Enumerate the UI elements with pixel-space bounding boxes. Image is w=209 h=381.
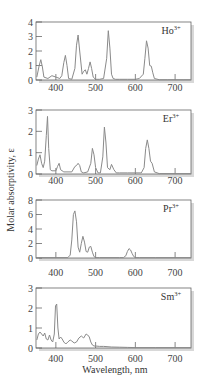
spectra-figure: 01234400500600700Ho3+0123400500600700Er3…: [0, 0, 209, 381]
y-tick-label: 3: [28, 105, 33, 116]
x-tick-label: 700: [168, 267, 183, 278]
y-tick-label: 3: [28, 31, 33, 42]
panel-er: 0123400500600700Er3+: [28, 105, 194, 187]
x-tick-label: 600: [128, 175, 143, 186]
x-tick-label: 400: [48, 353, 63, 364]
y-tick-label: 1: [28, 147, 33, 158]
x-tick-label: 700: [168, 353, 183, 364]
y-tick-label: 2: [28, 238, 33, 249]
y-tick-label: 8: [28, 195, 33, 206]
y-tick-label: 0: [28, 343, 33, 354]
y-tick-label: 0: [28, 253, 33, 264]
x-tick-label: 400: [48, 175, 63, 186]
y-tick-label: 2: [28, 126, 33, 137]
y-axis-title: Molar absorptivity, ε: [5, 148, 16, 231]
y-tick-label: 2: [28, 46, 33, 57]
panel-sm: 0123400500600700Sm3+: [28, 283, 194, 365]
x-tick-label: 600: [128, 82, 143, 93]
y-tick-label: 0: [28, 75, 33, 86]
x-tick-label: 600: [128, 353, 143, 364]
y-tick-label: 4: [28, 17, 33, 28]
x-tick-label: 400: [48, 267, 63, 278]
y-tick-label: 6: [28, 209, 33, 220]
y-tick-label: 1: [28, 323, 33, 334]
y-tick-label: 1: [28, 60, 33, 71]
x-tick-label: 500: [88, 267, 103, 278]
x-tick-label: 500: [88, 353, 103, 364]
x-tick-label: 600: [128, 267, 143, 278]
panel-ho: 01234400500600700Ho3+: [28, 17, 194, 94]
x-tick-label: 400: [48, 82, 63, 93]
y-tick-label: 2: [28, 303, 33, 314]
panel-pr: 02468400500600700Pr3+: [28, 195, 194, 279]
y-tick-label: 0: [28, 169, 33, 180]
x-tick-label: 700: [168, 175, 183, 186]
y-tick-label: 3: [28, 283, 33, 294]
x-tick-label: 500: [88, 82, 103, 93]
x-tick-label: 500: [88, 175, 103, 186]
y-tick-label: 4: [28, 224, 33, 235]
x-tick-label: 700: [168, 82, 183, 93]
x-axis-title: Wavelength, nm: [82, 364, 148, 375]
